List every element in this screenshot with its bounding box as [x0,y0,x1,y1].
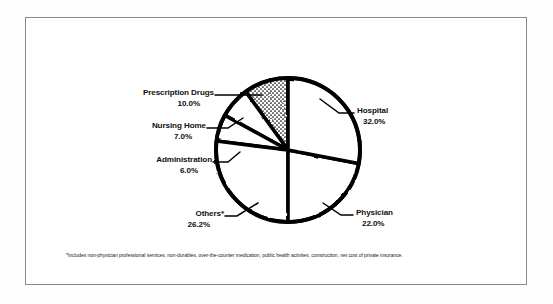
slice-hospital [288,78,360,164]
label-others: Others* 26.2% [130,209,224,230]
footnote-text: *Includes non-physician professional ser… [66,252,486,259]
label-others-value: 26.2% [130,220,224,231]
label-administration: Administration 6.0% [108,155,212,176]
label-hospital-value: 32.0% [357,117,388,128]
label-nursing-home-value: 7.0% [108,132,206,143]
label-hospital-name: Hospital [357,106,388,117]
label-administration-name: Administration [108,155,212,166]
label-physician-name: Physician [356,208,393,219]
slice-others [216,141,288,222]
label-prescription-drugs-value: 10.0% [108,99,214,110]
label-prescription-drugs: Prescription Drugs 10.0% [108,88,214,109]
label-physician-value: 22.0% [356,219,393,230]
pie-body [216,78,360,222]
label-nursing-home-name: Nursing Home [108,121,206,132]
label-others-name: Others* [130,209,224,220]
label-hospital: Hospital 32.0% [357,106,388,127]
label-nursing-home: Nursing Home 7.0% [108,121,206,142]
label-administration-value: 6.0% [108,166,212,177]
label-physician: Physician 22.0% [356,208,393,229]
label-prescription-drugs-name: Prescription Drugs [108,88,214,99]
figure-page: Prescription Drugs 10.0% Nursing Home 7.… [0,0,553,304]
